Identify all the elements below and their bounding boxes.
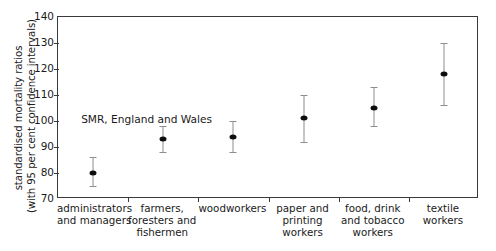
data-point xyxy=(370,106,377,111)
x-axis-category-label-line: and managers xyxy=(57,214,127,226)
error-bar-cap-lower xyxy=(440,105,447,106)
data-point xyxy=(300,116,307,121)
x-axis-category-label: paper andprintingworkers xyxy=(268,202,338,239)
x-axis-category-label-line: food, drink xyxy=(338,202,408,214)
error-bar-cap-lower xyxy=(370,126,377,127)
x-axis-category-label-line: and tobacco xyxy=(338,214,408,226)
y-axis-tick-mark xyxy=(54,69,59,70)
y-axis-tick-label: 100 xyxy=(18,115,54,126)
y-axis-tick-mark xyxy=(54,147,59,148)
plot-area: SMR, England and Wales xyxy=(57,16,478,198)
x-axis-category-label-line: foresters and xyxy=(127,214,197,226)
y-axis-tick-mark xyxy=(54,95,59,96)
y-axis-tick-label: 120 xyxy=(18,63,54,74)
chart-figure: standardised mortality ratios (with 95 p… xyxy=(0,0,496,251)
y-axis-tick-label: 90 xyxy=(18,141,54,152)
x-axis-category-label-line: workers xyxy=(338,226,408,238)
error-bar-cap-lower xyxy=(230,152,237,153)
error-bar-cap-upper xyxy=(230,121,237,122)
y-axis-tick-mark xyxy=(54,173,59,174)
error-bar-cap-upper xyxy=(440,43,447,44)
x-axis-category-label-line: farmers, xyxy=(127,202,197,214)
data-point xyxy=(90,171,97,176)
y-axis-tick-label: 110 xyxy=(18,89,54,100)
error-bar-cap-lower xyxy=(300,142,307,143)
y-axis-tick-label: 130 xyxy=(18,37,54,48)
x-axis-category-label-line: workers xyxy=(408,214,478,226)
error-bar-cap-upper xyxy=(160,126,167,127)
x-axis-category-label: administratorsand managers xyxy=(57,202,127,226)
error-bar-cap-upper xyxy=(90,157,97,158)
x-axis-category-label-line: woodworkers xyxy=(197,202,267,214)
y-axis-tick-label: 80 xyxy=(18,167,54,178)
error-bar-cap-lower xyxy=(90,186,97,187)
x-axis-category-label-line: printing xyxy=(268,214,338,226)
x-axis-category-label-line: administrators xyxy=(57,202,127,214)
y-axis-tick-mark xyxy=(54,43,59,44)
x-axis-category-label: textileworkers xyxy=(408,202,478,226)
x-axis-category-label: food, drinkand tobaccoworkers xyxy=(338,202,408,239)
y-axis-tick-label: 140 xyxy=(18,11,54,22)
data-point xyxy=(440,72,447,77)
x-axis-category-label-line: textile xyxy=(408,202,478,214)
y-axis-tick-label: 70 xyxy=(18,193,54,204)
error-bar-cap-lower xyxy=(160,152,167,153)
data-point xyxy=(160,137,167,142)
x-axis-category-label-line: workers xyxy=(268,226,338,238)
chart-annotation: SMR, England and Wales xyxy=(81,113,212,125)
x-axis-category-label-line: paper and xyxy=(268,202,338,214)
y-axis-tick-mark xyxy=(54,121,59,122)
data-point xyxy=(230,134,237,139)
y-axis-tick-labels: 708090100110120130140 xyxy=(18,0,54,251)
error-bar-cap-upper xyxy=(300,95,307,96)
x-axis-category-labels: administratorsand managersfarmers,forest… xyxy=(57,202,478,251)
x-axis-category-label-line: fishermen xyxy=(127,226,197,238)
error-bar-cap-upper xyxy=(370,87,377,88)
x-axis-category-label: woodworkers xyxy=(197,202,267,214)
x-axis-category-label: farmers,foresters andfishermen xyxy=(127,202,197,239)
